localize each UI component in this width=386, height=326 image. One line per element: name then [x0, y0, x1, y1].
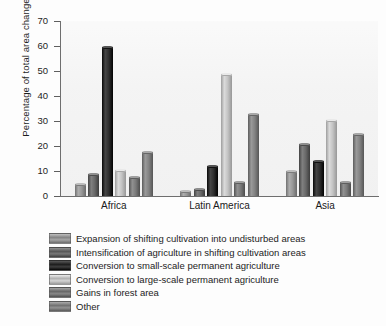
bar-top-cap [313, 160, 324, 163]
x-axis-category-label: Africa [54, 200, 174, 211]
bar-top-cap [194, 188, 205, 191]
bar-top-cap [102, 46, 113, 49]
y-axis-tick-label: 20 [2, 140, 48, 151]
legend-color-swatch [49, 233, 71, 244]
y-axis-tick-label: 60 [2, 40, 48, 51]
legend-item[interactable]: Other [49, 300, 385, 313]
legend-label: Gains in forest area [76, 287, 159, 298]
bar [129, 177, 140, 196]
y-axis-tick-label: 10 [2, 165, 48, 176]
bar [286, 171, 297, 196]
figure: Percentage of total area change 01020304… [0, 0, 386, 326]
legend-color-swatch [49, 247, 71, 258]
x-axis-line [60, 196, 379, 197]
legend-label: Intensification of agriculture in shifti… [76, 247, 306, 258]
bar [115, 170, 126, 196]
bar-top-cap [129, 176, 140, 179]
legend-label: Expansion of shifting cultivation into u… [76, 233, 305, 244]
y-axis-tick-label: 30 [2, 115, 48, 126]
bar-top-cap [353, 133, 364, 136]
bar [221, 74, 232, 197]
legend-item[interactable]: Gains in forest area [49, 286, 385, 299]
y-axis-tick-label: 70 [2, 15, 48, 26]
bar [102, 47, 113, 196]
bar-top-cap [340, 181, 351, 184]
legend-color-swatch [49, 301, 71, 312]
legend-color-swatch [49, 260, 71, 271]
legend-item[interactable]: Expansion of shifting cultivation into u… [49, 232, 385, 245]
legend-label: Conversion to small-scale permanent agri… [76, 260, 280, 271]
bar-chart: Percentage of total area change 01020304… [0, 0, 386, 222]
bar [353, 134, 364, 197]
bar-top-cap [142, 151, 153, 154]
legend-color-swatch [49, 274, 71, 285]
bar-top-cap [115, 169, 126, 172]
bar-top-cap [221, 73, 232, 76]
bar-top-cap [248, 113, 259, 116]
bar-top-cap [180, 190, 191, 193]
y-axis-tick-label: 0 [2, 190, 48, 201]
bar [207, 166, 218, 196]
x-axis-category-label: Asia [265, 200, 385, 211]
bar [326, 120, 337, 196]
bar-top-cap [299, 143, 310, 146]
bar-top-cap [286, 170, 297, 173]
bar-top-cap [234, 181, 245, 184]
bar [234, 182, 245, 196]
bar-top-cap [75, 183, 86, 186]
bar [142, 152, 153, 197]
bar [88, 174, 99, 196]
bar [340, 182, 351, 196]
x-axis-category-label: Latin America [160, 200, 280, 211]
legend-item[interactable]: Intensification of agriculture in shifti… [49, 246, 385, 259]
legend-color-swatch [49, 287, 71, 298]
legend: Expansion of shifting cultivation into u… [49, 232, 385, 313]
bar-top-cap [88, 173, 99, 176]
y-axis-line [60, 21, 61, 197]
y-axis-tick-label: 40 [2, 90, 48, 101]
legend-label: Other [76, 301, 100, 312]
y-axis-tick-label: 50 [2, 65, 48, 76]
legend-item[interactable]: Conversion to large-scale permanent agri… [49, 273, 385, 286]
bar-top-cap [326, 119, 337, 122]
bar [313, 161, 324, 196]
bar [248, 114, 259, 197]
legend-label: Conversion to large-scale permanent agri… [76, 274, 279, 285]
legend-item[interactable]: Conversion to small-scale permanent agri… [49, 259, 385, 272]
bar-top-cap [207, 165, 218, 168]
bar [75, 184, 86, 196]
bar [194, 189, 205, 197]
plot-area [61, 21, 378, 196]
bar [299, 144, 310, 197]
